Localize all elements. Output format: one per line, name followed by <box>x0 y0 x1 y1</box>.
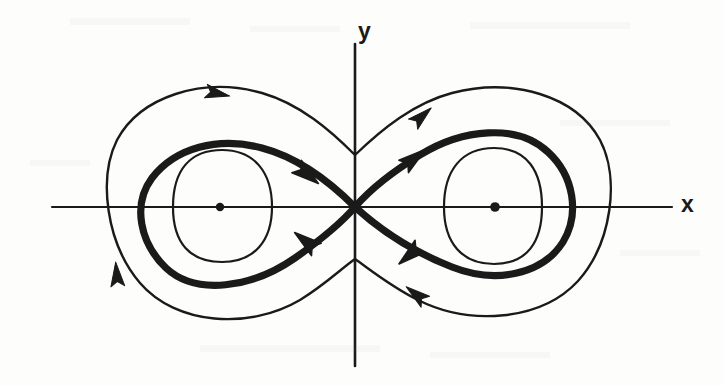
x-axis-label: x <box>681 193 694 216</box>
fixed-point-right-center <box>490 202 500 212</box>
phase-portrait-canvas <box>0 0 724 385</box>
fixed-point-left-center <box>216 203 224 211</box>
y-axis-label: y <box>358 20 371 43</box>
axes-group <box>52 44 672 366</box>
arrow-outer-top-right <box>408 103 435 130</box>
arrow-outer-left <box>109 261 125 286</box>
trajectory-curves <box>107 87 611 319</box>
phase-portrait-figure: y x <box>0 0 724 385</box>
